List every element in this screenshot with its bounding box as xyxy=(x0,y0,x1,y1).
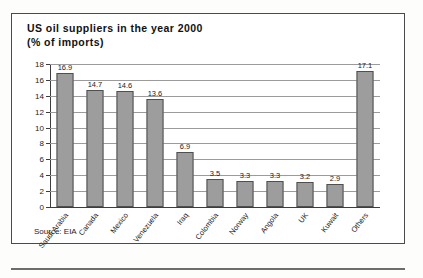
bar-value-label: 17.1 xyxy=(358,61,373,70)
bar-slot: 3.3Norway xyxy=(230,64,260,207)
bar xyxy=(357,71,374,207)
bar-value-label: 14.7 xyxy=(88,80,103,89)
chart-title-block: US oil suppliers in the year 2000 (% of … xyxy=(27,22,357,49)
bar-value-label: 3.2 xyxy=(300,172,310,181)
y-axis-tick-label: 10 xyxy=(35,123,44,132)
bar-value-label: 16.9 xyxy=(58,63,73,72)
plot-area: 024681012141618 16.9Saudi Arabia14.7Cana… xyxy=(50,64,380,207)
x-axis-category-text: Norway xyxy=(227,211,250,237)
y-axis-tick-label: 12 xyxy=(35,107,44,116)
bar-slot: 3.2UK xyxy=(290,64,320,207)
bar-value-label: 2.9 xyxy=(330,174,340,183)
x-axis-category-text: Colombia xyxy=(193,211,220,242)
bar-slot: 14.6Mexico xyxy=(110,64,140,207)
y-axis-tick-label: 14 xyxy=(35,91,44,100)
bar-slot: 14.7Canada xyxy=(80,64,110,207)
y-axis-tick xyxy=(46,207,50,208)
x-axis-category-text: Angola xyxy=(259,211,280,235)
bar xyxy=(147,99,164,207)
bar-value-label: 3.5 xyxy=(210,169,220,178)
y-axis-tick-label: 6 xyxy=(40,155,44,164)
bar-slot: 3.3Angola xyxy=(260,64,290,207)
figure-frame: US oil suppliers in the year 2000 (% of … xyxy=(11,13,405,244)
bar-slot: 6.9Iraq xyxy=(170,64,200,207)
bar-series: 16.9Saudi Arabia14.7Canada14.6Mexico13.6… xyxy=(50,64,380,207)
page-divider-rule xyxy=(11,268,405,270)
y-axis-tick-label: 2 xyxy=(40,187,44,196)
x-axis-category-text: Others xyxy=(349,211,370,234)
bar-value-label: 3.3 xyxy=(240,171,250,180)
source-note: Source: EIA xyxy=(34,227,77,236)
chart-title-line-2: (% of imports) xyxy=(27,36,357,50)
bar xyxy=(177,152,194,207)
bar-slot: 17.1Others xyxy=(350,64,380,207)
x-axis-category-text: UK xyxy=(297,211,311,225)
x-axis-category-text: Canada xyxy=(77,211,100,237)
bar xyxy=(117,91,134,207)
x-axis-category-text: Venezuela xyxy=(131,211,160,244)
bar xyxy=(87,90,104,207)
scanned-page: US oil suppliers in the year 2000 (% of … xyxy=(0,0,423,278)
bar-value-label: 13.6 xyxy=(148,89,163,98)
bar-value-label: 3.3 xyxy=(270,171,280,180)
bar-slot: 3.5Colombia xyxy=(200,64,230,207)
chart-title-line-1: US oil suppliers in the year 2000 xyxy=(27,22,357,36)
y-axis-tick-label: 8 xyxy=(40,139,44,148)
x-axis-category-text: Mexico xyxy=(108,211,130,235)
y-axis-tick-label: 16 xyxy=(35,75,44,84)
y-axis-tick-label: 4 xyxy=(40,171,44,180)
x-axis-category-text: Kuwait xyxy=(319,211,340,234)
bar-slot: 16.9Saudi Arabia xyxy=(50,64,80,207)
x-axis-category-text: Iraq xyxy=(175,211,190,227)
bar-value-label: 6.9 xyxy=(180,142,190,151)
y-axis-tick-label: 18 xyxy=(35,60,44,69)
bar-value-label: 14.6 xyxy=(118,81,133,90)
bar xyxy=(57,73,74,207)
bar-slot: 13.6Venezuela xyxy=(140,64,170,207)
bar-slot: 2.9Kuwait xyxy=(320,64,350,207)
y-axis-tick-label: 0 xyxy=(40,203,44,212)
